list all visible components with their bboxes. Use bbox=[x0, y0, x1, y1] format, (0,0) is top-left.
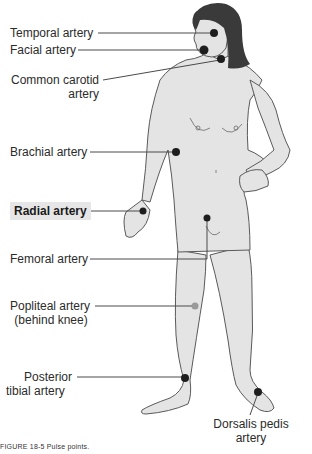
label-femoral-artery: Femoral artery bbox=[10, 252, 88, 266]
label-common-carotid-line1: Common carotid bbox=[10, 73, 99, 87]
label-brachial-artery: Brachial artery bbox=[10, 145, 87, 159]
label-popliteal-line1: Popliteal artery bbox=[10, 299, 90, 313]
posterior-tibial-pulse-dot bbox=[181, 374, 189, 382]
popliteal-pulse-dot bbox=[192, 303, 199, 310]
dorsalis-pedis-pulse-dot bbox=[254, 388, 262, 396]
figure-caption: FIGURE 18-5 Pulse points. bbox=[0, 443, 89, 450]
facial-pulse-dot bbox=[200, 46, 209, 55]
label-dorsalis-pedis-line2: artery bbox=[206, 431, 296, 445]
label-temporal-artery: Temporal artery bbox=[10, 26, 93, 40]
right-hand bbox=[240, 170, 269, 192]
right-leg bbox=[210, 245, 274, 412]
label-common-carotid-line2: artery bbox=[10, 87, 99, 101]
label-posterior-tibial-line1: Posterior bbox=[6, 370, 72, 384]
label-facial-artery: Facial artery bbox=[10, 43, 76, 57]
carotid-pulse-dot bbox=[217, 55, 225, 63]
pulse-points-figure: Temporal artery Facial artery Common car… bbox=[0, 0, 312, 454]
temporal-pulse-dot bbox=[210, 29, 218, 37]
radial-pulse-dot bbox=[140, 208, 147, 215]
label-dorsalis-pedis-line1: Dorsalis pedis bbox=[206, 417, 296, 431]
label-posterior-tibial-line2: tibial artery bbox=[6, 384, 65, 398]
femoral-pulse-dot bbox=[204, 215, 211, 222]
label-radial-artery: Radial artery bbox=[10, 202, 91, 220]
left-leg bbox=[142, 250, 207, 414]
label-popliteal-line2: (behind knee) bbox=[10, 313, 92, 327]
left-hand bbox=[124, 200, 150, 237]
brachial-pulse-dot bbox=[172, 148, 180, 156]
